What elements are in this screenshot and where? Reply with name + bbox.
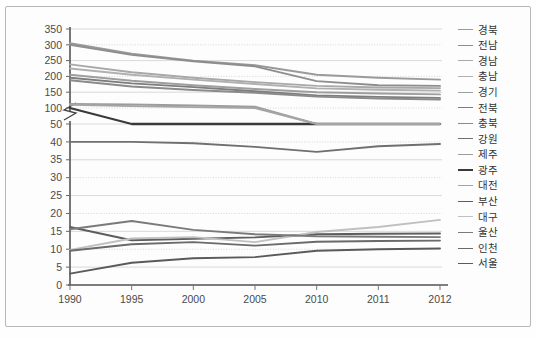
y-tick-label: 10: [50, 243, 62, 255]
legend-color-swatch: [458, 154, 473, 155]
legend-label: 경남: [478, 56, 498, 67]
y-tick-label: 50: [50, 118, 62, 130]
chart-legend: 경북전남경남충남경기전북충북강원제주광주대전부산대구울산인천서울: [458, 22, 530, 272]
legend-label: 서울: [478, 258, 498, 269]
chart-page: 3503002502001501005040353025201510501990…: [0, 0, 536, 338]
legend-item[interactable]: 경남: [458, 53, 530, 69]
y-tick-label: 25: [50, 189, 62, 201]
legend-item[interactable]: 서울: [458, 256, 530, 272]
legend-color-swatch: [458, 107, 473, 108]
series-line: [70, 249, 440, 274]
y-tick-label: 150: [44, 86, 62, 98]
legend-item[interactable]: 충남: [458, 69, 530, 85]
legend-label: 전남: [478, 40, 498, 51]
series-line: [70, 108, 440, 124]
y-tick-label: 100: [44, 102, 62, 114]
legend-color-swatch: [458, 60, 473, 61]
legend-item[interactable]: 광주: [458, 162, 530, 178]
legend-label: 부산: [478, 196, 498, 207]
legend-item[interactable]: 대전: [458, 178, 530, 194]
y-tick-label: 200: [44, 70, 62, 82]
x-tick-label: 2005: [243, 293, 267, 305]
legend-color-swatch: [458, 29, 473, 30]
line-chart: 3503002502001501005040353025201510501990…: [0, 0, 536, 338]
legend-label: 강원: [478, 134, 498, 145]
legend-label: 제주: [478, 149, 498, 160]
y-tick-label: 15: [50, 225, 62, 237]
legend-label: 인천: [478, 243, 498, 254]
y-tick-label: 20: [50, 207, 62, 219]
x-tick-label: 2000: [182, 293, 206, 305]
legend-color-swatch: [458, 123, 473, 124]
y-tick-label: 300: [44, 39, 62, 51]
legend-color-swatch: [458, 248, 473, 249]
y-tick-label: 250: [44, 54, 62, 66]
legend-color-swatch: [458, 232, 473, 233]
legend-item[interactable]: 대구: [458, 209, 530, 225]
legend-item[interactable]: 충북: [458, 116, 530, 132]
legend-color-swatch: [458, 185, 473, 186]
legend-item[interactable]: 제주: [458, 147, 530, 163]
legend-item[interactable]: 강원: [458, 131, 530, 147]
y-tick-label: 30: [50, 171, 62, 183]
legend-item[interactable]: 경북: [458, 22, 530, 38]
x-tick-label: 1995: [120, 293, 144, 305]
x-tick-label: 2011: [367, 293, 390, 305]
legend-color-swatch: [458, 216, 473, 217]
legend-label: 광주: [478, 165, 498, 176]
legend-item[interactable]: 울산: [458, 225, 530, 241]
legend-item[interactable]: 전남: [458, 38, 530, 54]
x-tick-label: 2012: [428, 293, 452, 305]
y-tick-label: 5: [56, 261, 62, 273]
plot-svg: 3503002502001501005040353025201510501990…: [0, 0, 536, 338]
legend-color-swatch: [458, 169, 473, 171]
legend-label: 충북: [478, 118, 498, 129]
legend-color-swatch: [458, 76, 473, 77]
legend-item[interactable]: 경기: [458, 84, 530, 100]
y-tick-label: 35: [50, 153, 62, 165]
legend-label: 대구: [478, 212, 498, 223]
y-tick-label: 40: [50, 136, 62, 148]
y-tick-label: 0: [56, 279, 62, 291]
legend-color-swatch: [458, 92, 473, 93]
legend-color-swatch: [458, 201, 473, 202]
legend-item[interactable]: 인천: [458, 240, 530, 256]
legend-label: 대전: [478, 180, 498, 191]
legend-label: 전북: [478, 103, 498, 114]
legend-label: 울산: [478, 227, 498, 238]
legend-color-swatch: [458, 45, 473, 46]
series-line: [70, 142, 440, 152]
legend-item[interactable]: 전북: [458, 100, 530, 116]
legend-label: 충남: [478, 71, 498, 82]
y-tick-label: 350: [44, 23, 62, 35]
legend-color-swatch: [458, 263, 473, 264]
legend-color-swatch: [458, 138, 473, 139]
legend-label: 경북: [478, 25, 498, 36]
x-tick-label: 1990: [58, 293, 82, 305]
legend-label: 경기: [478, 87, 498, 98]
legend-item[interactable]: 부산: [458, 194, 530, 210]
x-tick-label: 2010: [305, 293, 329, 305]
